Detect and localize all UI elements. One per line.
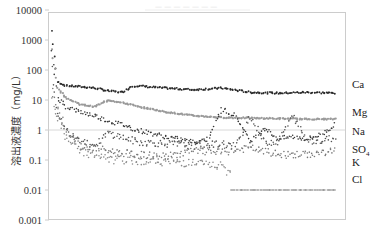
label-na: Na	[352, 125, 365, 137]
chart: — — — — — — — 1000010001001010.10.010.00…	[0, 0, 372, 235]
label-cl: Cl	[352, 173, 362, 185]
label-mg: Mg	[352, 106, 368, 118]
y-tick-label: 1000	[21, 35, 42, 46]
y-tick-label: 0.01	[24, 185, 42, 196]
y-tick-label: 0.001	[18, 215, 42, 226]
y-tick-label: 100	[26, 65, 42, 76]
label-ca: Ca	[352, 78, 364, 90]
label-k: K	[352, 156, 360, 168]
y-tick-label: 10000	[16, 5, 42, 16]
y-tick-label: 0.1	[29, 155, 42, 166]
y-tick-label: 1	[37, 125, 42, 136]
y-tick-label: 10	[32, 95, 43, 106]
y-axis-label: 溶出液濃度（mg/L）	[10, 70, 22, 165]
